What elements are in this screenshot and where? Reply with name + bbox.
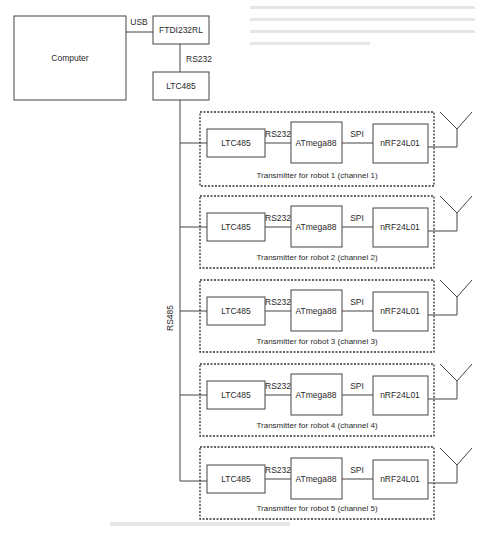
transmitter-caption: Transmitter for robot 5 (channel 5) xyxy=(256,504,377,513)
computer-label: Computer xyxy=(51,53,88,63)
rs232-label: RS232 xyxy=(265,129,291,139)
spi-label: SPI xyxy=(350,213,364,223)
atmega88-label: ATmega88 xyxy=(296,138,337,148)
atmega88-label: ATmega88 xyxy=(296,222,337,232)
rs232-label: RS232 xyxy=(265,465,291,475)
rs485-label: RS485 xyxy=(165,305,175,331)
usb-link: USB xyxy=(126,17,153,32)
rs232-label: RS232 xyxy=(265,297,291,307)
atmega88-label: ATmega88 xyxy=(296,390,337,400)
transmitter-4: LTC485 RS232 ATmega88 SPI nRF24L01 Trans… xyxy=(180,364,472,436)
transmitter-5: LTC485 RS232 ATmega88 SPI nRF24L01 Trans… xyxy=(180,447,472,519)
ltc485-master-label: LTC485 xyxy=(166,81,196,91)
ltc485-label: LTC485 xyxy=(221,390,251,400)
spi-label: SPI xyxy=(350,129,364,139)
ltc485-label: LTC485 xyxy=(221,474,251,484)
rs232-master-link: RS232 xyxy=(180,44,212,72)
nrf24l01-label: nRF24L01 xyxy=(380,138,420,148)
spi-label: SPI xyxy=(350,465,364,475)
computer-block: Computer xyxy=(14,16,126,100)
transmitter-caption: Transmitter for robot 3 (channel 3) xyxy=(256,337,377,346)
ftdi-block: FTDI232RL xyxy=(153,16,209,44)
rs232-master-label: RS232 xyxy=(186,54,212,64)
transmitter-caption: Transmitter for robot 4 (channel 4) xyxy=(256,421,377,430)
transmitter-2: LTC485 RS232 ATmega88 SPI nRF24L01 Trans… xyxy=(180,196,472,268)
usb-label: USB xyxy=(130,17,148,27)
nrf24l01-label: nRF24L01 xyxy=(380,306,420,316)
nrf24l01-label: nRF24L01 xyxy=(380,474,420,484)
ltc485-label: LTC485 xyxy=(221,138,251,148)
atmega88-label: ATmega88 xyxy=(296,306,337,316)
rs232-label: RS232 xyxy=(265,381,291,391)
system-block-diagram: Computer USB FTDI232RL RS232 LTC485 RS48… xyxy=(0,0,485,533)
atmega88-label: ATmega88 xyxy=(296,474,337,484)
ftdi-label: FTDI232RL xyxy=(159,25,203,35)
ltc485-label: LTC485 xyxy=(221,222,251,232)
spi-label: SPI xyxy=(350,381,364,391)
ltc485-label: LTC485 xyxy=(221,306,251,316)
nrf24l01-label: nRF24L01 xyxy=(380,390,420,400)
transmitter-caption: Transmitter for robot 1 (channel 1) xyxy=(256,171,377,180)
rs232-label: RS232 xyxy=(265,213,291,223)
rs485-bus: RS485 xyxy=(165,100,180,481)
transmitter-1: LTC485 RS232 ATmega88 SPI nRF24L01 Trans… xyxy=(180,112,472,186)
transmitter-caption: Transmitter for robot 2 (channel 2) xyxy=(256,253,377,262)
transmitter-3: LTC485 RS232 ATmega88 SPI nRF24L01 Trans… xyxy=(180,280,472,352)
spi-label: SPI xyxy=(350,297,364,307)
ltc485-master-block: LTC485 xyxy=(153,72,209,100)
nrf24l01-label: nRF24L01 xyxy=(380,222,420,232)
